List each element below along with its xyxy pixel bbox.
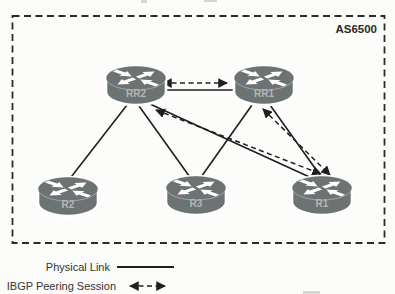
legend-physical-label: Physical Link [46, 261, 111, 273]
legend: Physical Link IBGP Peering Session [7, 261, 174, 292]
router-node-R2: R2 [38, 177, 98, 216]
edge-RR2-R2-physical [68, 105, 127, 181]
edge-RR1-R3-physical [199, 105, 252, 180]
network-diagram-figure: AS6500 RR2RR1R2R3R1 Physical Link IBGP P… [0, 0, 395, 294]
as-number-label: AS6500 [335, 23, 377, 35]
router-icon [234, 66, 294, 105]
router-node-RR2: RR2 [106, 66, 166, 105]
edge-RR2-R3-physical [139, 106, 192, 180]
router-icon [292, 176, 352, 215]
nodes-layer: RR2RR1R2R3R1 [38, 66, 352, 216]
edge-RR2-R1-physical [150, 104, 316, 180]
edge-RR1-R1-ibgp [263, 109, 330, 175]
router-node-R3: R3 [166, 176, 226, 215]
router-icon [38, 177, 98, 216]
router-node-R1: R1 [292, 176, 352, 215]
legend-ibgp-label: IBGP Peering Session [7, 280, 116, 292]
router-label-R1: R1 [316, 198, 329, 209]
router-node-RR1: RR1 [234, 66, 294, 105]
router-icon [106, 66, 166, 105]
router-label-RR2: RR2 [126, 88, 146, 99]
router-label-R2: R2 [62, 199, 75, 210]
router-label-RR1: RR1 [254, 88, 274, 99]
router-icon [166, 176, 226, 215]
router-label-R3: R3 [190, 198, 203, 209]
